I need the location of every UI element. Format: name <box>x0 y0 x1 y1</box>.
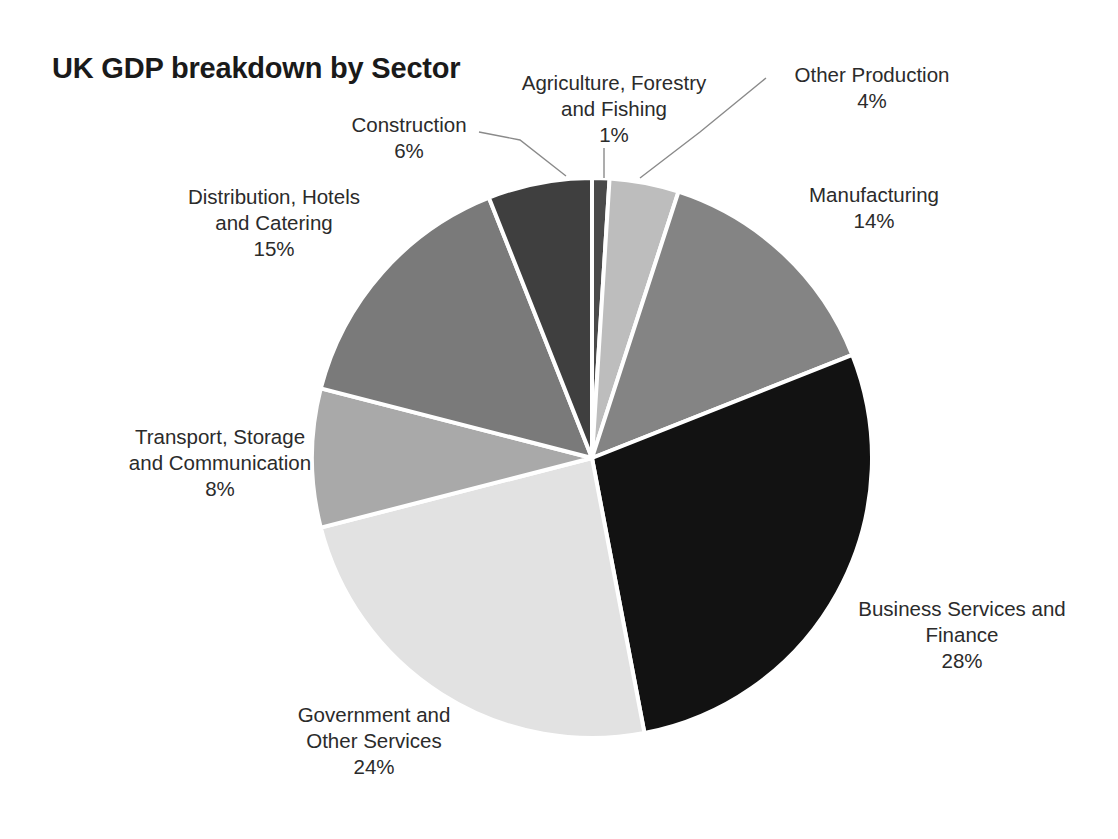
slice-label-business-services-line2: Finance <box>850 622 1074 648</box>
slice-label-agriculture-line2: and Fishing <box>506 96 722 122</box>
slice-label-government: Government and Other Services 24% <box>262 702 486 781</box>
slice-label-other-production-line1: Other Production <box>764 62 980 88</box>
slice-value-construction: 6% <box>333 138 485 164</box>
slice-label-agriculture-line1: Agriculture, Forestry <box>506 70 722 96</box>
slice-value-other-production: 4% <box>764 88 980 114</box>
slice-value-agriculture: 1% <box>506 122 722 148</box>
pie-slice-group <box>312 178 872 738</box>
slice-label-business-services-line1: Business Services and <box>850 596 1074 622</box>
slice-label-transport-line1: Transport, Storage <box>104 424 336 450</box>
slice-label-manufacturing: Manufacturing 14% <box>794 182 954 234</box>
slice-value-government: 24% <box>262 754 486 780</box>
slice-label-agriculture: Agriculture, Forestry and Fishing 1% <box>506 70 722 149</box>
slice-label-transport: Transport, Storage and Communication 8% <box>104 424 336 503</box>
slice-label-government-line1: Government and <box>262 702 486 728</box>
slice-value-transport: 8% <box>104 476 336 502</box>
slice-value-distribution: 15% <box>166 236 382 262</box>
slice-label-distribution-line2: and Catering <box>166 210 382 236</box>
slice-label-business-services: Business Services and Finance 28% <box>850 596 1074 675</box>
slice-label-distribution: Distribution, Hotels and Catering 15% <box>166 184 382 263</box>
slice-label-transport-line2: and Communication <box>104 450 336 476</box>
slice-label-manufacturing-line1: Manufacturing <box>794 182 954 208</box>
slice-label-construction: Construction 6% <box>333 112 485 164</box>
pie-chart-figure: UK GDP breakdown by Sector Agriculture, … <box>0 0 1118 839</box>
slice-label-construction-line1: Construction <box>333 112 485 138</box>
slice-label-other-production: Other Production 4% <box>764 62 980 114</box>
slice-value-manufacturing: 14% <box>794 208 954 234</box>
slice-value-business-services: 28% <box>850 648 1074 674</box>
slice-label-distribution-line1: Distribution, Hotels <box>166 184 382 210</box>
slice-label-government-line2: Other Services <box>262 728 486 754</box>
